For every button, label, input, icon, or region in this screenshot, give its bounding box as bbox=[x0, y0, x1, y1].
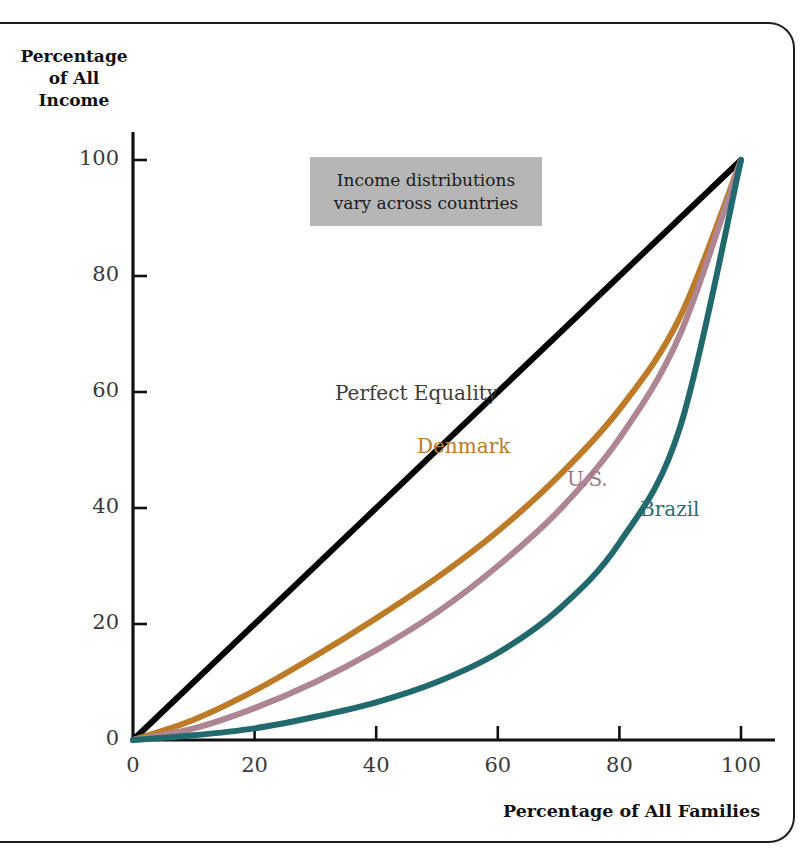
x-tick-label: 60 bbox=[468, 753, 528, 777]
x-tick-label: 100 bbox=[711, 753, 771, 777]
x-tick-label: 0 bbox=[103, 753, 163, 777]
y-tick-label: 0 bbox=[53, 726, 119, 750]
y-tick-label: 80 bbox=[53, 262, 119, 286]
x-tick-label: 80 bbox=[589, 753, 649, 777]
plot-area bbox=[0, 0, 805, 864]
annotation-box: Income distributions vary across countri… bbox=[310, 157, 542, 226]
annotation-text: Income distributions vary across countri… bbox=[334, 169, 519, 215]
series-label-denmark: Denmark bbox=[417, 434, 510, 459]
series-label-brazil: Brazil bbox=[640, 497, 700, 522]
y-tick-label: 40 bbox=[53, 494, 119, 518]
y-tick-label: 20 bbox=[53, 610, 119, 634]
y-tick-label: 100 bbox=[53, 146, 119, 170]
series-label-us: U.S. bbox=[567, 467, 608, 492]
series-label-perfect-equality: Perfect Equality bbox=[335, 381, 498, 406]
y-tick-label: 60 bbox=[53, 378, 119, 402]
lorenz-curve-figure: Percentage of All Income Percentage of A… bbox=[0, 0, 805, 864]
x-tick-label: 20 bbox=[225, 753, 285, 777]
x-tick-label: 40 bbox=[346, 753, 406, 777]
